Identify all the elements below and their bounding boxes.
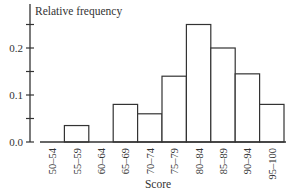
histogram-bar (162, 76, 186, 142)
x-tick-label: 55–59 (72, 148, 83, 174)
histogram-bar (260, 104, 284, 142)
histogram-bar (211, 48, 235, 142)
x-tick-label: 85–89 (218, 148, 229, 174)
x-tick-label: 95–100 (267, 148, 278, 180)
x-tick-label: 75–79 (169, 148, 180, 174)
histogram-chart: 0.00.10.2 50–5455–5960–6465–6970–7475–79… (0, 0, 289, 194)
x-tick-label: 65–69 (120, 148, 131, 174)
histogram-bar (64, 126, 88, 142)
y-tick-label: 0.0 (9, 136, 23, 148)
histogram-bar (113, 104, 137, 142)
histogram-bar (186, 25, 210, 143)
histogram-bar (138, 114, 162, 142)
histogram-bar (235, 74, 259, 142)
x-tick-label: 50–54 (47, 147, 58, 174)
x-tick-label: 80–84 (194, 147, 205, 174)
x-tick-label: 70–74 (145, 147, 156, 174)
y-axis-label: Relative frequency (35, 5, 122, 18)
y-tick-label: 0.2 (9, 42, 23, 54)
x-tick-label: 60–64 (96, 147, 107, 174)
x-tick-label: 90–94 (242, 147, 253, 174)
x-axis-label: Score (145, 178, 171, 190)
bars-group (64, 25, 284, 143)
y-tick-label: 0.1 (9, 89, 23, 101)
x-axis-tick-labels: 50–5455–5960–6465–6970–7475–7980–8485–89… (47, 147, 278, 179)
